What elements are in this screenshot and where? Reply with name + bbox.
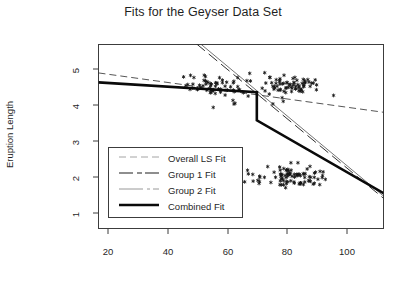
scatter-point — [306, 167, 309, 171]
scatter-point — [223, 84, 226, 88]
scatter-point — [308, 164, 311, 168]
scatter-point — [247, 94, 250, 98]
scatter-point — [313, 175, 316, 179]
scatter-point — [247, 172, 250, 176]
y-axis-label: Eruption Length — [4, 68, 15, 82]
y-axis-label-text: Eruption Length — [4, 154, 15, 168]
scatter-point — [246, 168, 249, 172]
scatter-point — [284, 186, 287, 190]
x-tick-label-60: 60 — [213, 246, 243, 257]
scatter-point — [261, 86, 264, 90]
scatter-point — [324, 177, 327, 181]
scatter-point — [318, 183, 321, 187]
scatter-point — [231, 98, 234, 102]
chart-title: Fits for the Geyser Data Set — [0, 5, 406, 19]
scatter-point — [279, 168, 282, 172]
y-axis-ticks — [93, 69, 99, 213]
legend-label-overall-ls-fit: Overall LS Fit — [168, 153, 226, 164]
scatter-point — [189, 73, 192, 77]
x-tick-label-40: 40 — [153, 246, 183, 257]
scatter-point — [212, 106, 215, 110]
scatter-point — [314, 78, 317, 82]
scatter-point — [258, 174, 261, 178]
y-tick-label-3: 3 — [70, 136, 81, 150]
scatter-point — [281, 96, 284, 100]
legend-label-group-2-fit: Group 2 Fit — [168, 185, 216, 196]
chart-figure: Fits for the Geyser Data Set Eruption Le… — [0, 0, 406, 284]
legend-label-combined-fit: Combined Fit — [168, 201, 225, 212]
scatter-point — [252, 179, 255, 183]
scatter-point — [289, 161, 292, 165]
scatter-point — [251, 173, 254, 177]
scatter-point — [263, 71, 266, 75]
scatter-point — [275, 78, 278, 82]
scatter-point — [266, 165, 269, 169]
scatter-point — [315, 83, 318, 87]
y-tick-label-1: 1 — [70, 208, 81, 222]
scatter-point — [274, 175, 277, 179]
x-tick-label-80: 80 — [272, 246, 302, 257]
scatter-point — [249, 79, 252, 83]
scatter-point — [295, 78, 298, 82]
scatter-point — [182, 75, 185, 79]
scatter-point — [269, 181, 272, 185]
x-tick-label-20: 20 — [93, 246, 123, 257]
x-tick-label-100: 100 — [332, 246, 362, 257]
scatter-point — [318, 169, 321, 173]
scatter-point — [282, 99, 285, 103]
scatter-point — [272, 170, 275, 174]
scatter-point — [290, 90, 293, 94]
scatter-point — [229, 85, 232, 89]
scatter-point — [315, 88, 318, 92]
scatter-point — [289, 179, 292, 183]
scatter-point — [263, 175, 266, 179]
scatter-point — [296, 161, 299, 165]
scatter-point — [218, 76, 221, 80]
fit-line-overall-ls-fit — [99, 73, 384, 112]
scatter-point — [221, 78, 224, 82]
y-tick-label-2: 2 — [70, 172, 81, 186]
scatter-point — [270, 81, 273, 85]
scatter-point — [268, 92, 271, 96]
scatter-point — [192, 76, 195, 80]
scatter-point — [278, 165, 281, 169]
scatter-point — [316, 177, 319, 181]
scatter-point — [248, 71, 251, 75]
x-axis-ticks — [108, 229, 347, 235]
scatter-point — [282, 73, 285, 77]
y-tick-label-4: 4 — [70, 100, 81, 114]
scatter-point — [214, 84, 217, 88]
scatter-point — [263, 89, 266, 93]
scatter-point — [264, 81, 267, 85]
y-tick-label-5: 5 — [70, 64, 81, 78]
scatter-point — [243, 180, 246, 184]
scatter-point — [223, 93, 226, 97]
legend-label-group-1-fit: Group 1 Fit — [168, 169, 216, 180]
scatter-point — [282, 183, 285, 187]
scatter-point — [332, 94, 335, 98]
scatter-point — [225, 80, 228, 84]
scatter-point — [321, 170, 324, 174]
plot-canvas — [0, 0, 406, 284]
